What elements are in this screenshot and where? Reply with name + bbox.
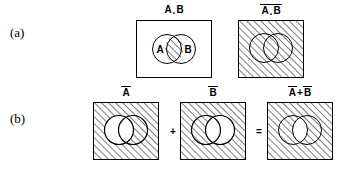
label-term-left: B xyxy=(209,87,216,98)
venn-graphic-not-a-plus-not-b xyxy=(268,103,332,159)
venn-box-not-a-and-b xyxy=(238,20,304,78)
full-hatch-fill xyxy=(239,21,303,77)
boolean-venn-figure: (a) A.B xyxy=(0,0,342,173)
circle-b-label: B xyxy=(184,44,191,55)
label-term-left: A xyxy=(289,87,296,98)
row-label-b: (b) xyxy=(10,112,25,125)
panel-not-a-plus-not-b-label: A+B xyxy=(267,86,333,102)
panel-not-b-label: B xyxy=(180,86,246,102)
label-overbar-right: B xyxy=(303,86,312,98)
label-term-left: A xyxy=(164,4,171,15)
circle-a-label: A xyxy=(156,44,163,55)
figure-row-a: (a) A.B xyxy=(0,4,342,84)
label-term-right: B xyxy=(304,87,311,98)
panel-not-a-and-b: A.B xyxy=(238,4,304,78)
venn-box-a-and-b: A B xyxy=(136,20,212,78)
venn-graphic-not-a xyxy=(94,103,158,159)
label-term-left: A xyxy=(261,5,268,16)
union-complement-hatch xyxy=(268,103,332,159)
venn-graphic-not-b xyxy=(181,103,245,159)
panel-not-b: B xyxy=(180,86,246,160)
venn-box-not-a-plus-not-b xyxy=(267,102,333,160)
label-overbar-left: A xyxy=(288,86,297,98)
venn-graphic-not-a-and-b xyxy=(239,21,303,77)
row-label-a: (a) xyxy=(10,26,24,39)
panel-not-a-and-b-label: A.B xyxy=(238,4,304,20)
label-overbar-group: A xyxy=(121,86,130,98)
label-overbar-group: B xyxy=(208,86,217,98)
panel-not-a: A xyxy=(93,86,159,160)
complement-b-hatch xyxy=(181,103,245,159)
venn-box-not-b xyxy=(180,102,246,160)
venn-graphic-a-and-b: A B xyxy=(137,21,211,77)
label-term-right: B xyxy=(273,5,280,16)
panel-not-a-label: A xyxy=(93,86,159,102)
panel-a-and-b-label: A.B xyxy=(136,4,212,20)
panel-a-and-b: A.B xyxy=(136,4,212,78)
label-overbar-group: A.B xyxy=(260,4,281,17)
operator-equals: = xyxy=(256,127,262,137)
label-term-right: B xyxy=(176,4,183,15)
venn-box-not-a xyxy=(93,102,159,160)
operator-plus: + xyxy=(170,127,176,137)
figure-row-b: (b) A xyxy=(0,86,342,173)
label-term-left: A xyxy=(122,87,129,98)
panel-not-a-plus-not-b: A+B xyxy=(267,86,333,160)
complement-a-hatch xyxy=(94,103,158,159)
